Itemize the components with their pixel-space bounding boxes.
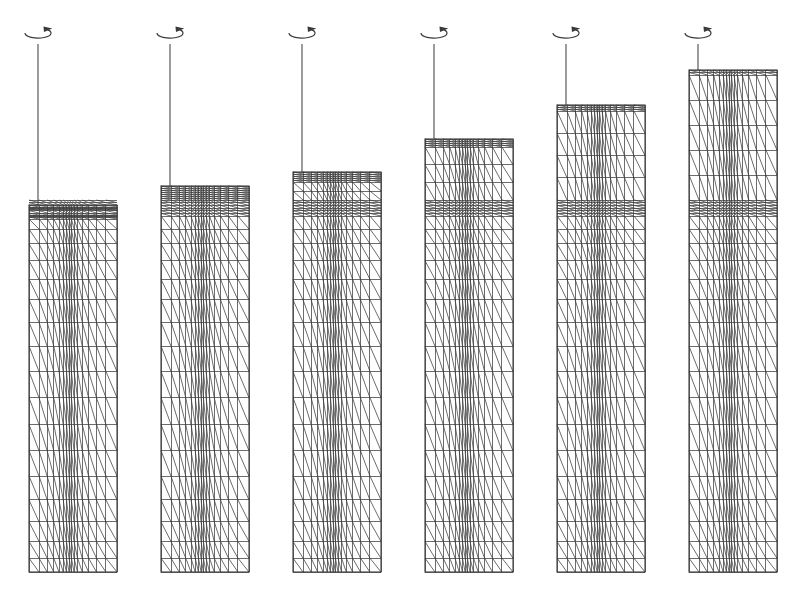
mesh-cell-diagonal [734, 200, 737, 203]
mesh-cell-diagonal [726, 558, 729, 572]
mesh-cell-diagonal [575, 500, 582, 522]
mesh-cell-diagonal [206, 200, 209, 203]
mesh-cell-diagonal [335, 500, 338, 522]
mesh-cell-diagonal [210, 229, 215, 244]
mesh-cell-diagonal [335, 203, 338, 206]
mesh-cell-diagonal [731, 451, 734, 476]
mesh-cell-diagonal [462, 229, 465, 244]
mesh-cell-diagonal [63, 476, 66, 500]
mesh-cell-diagonal [210, 300, 215, 322]
mesh-cell-diagonal [575, 558, 582, 572]
mesh-cell-diagonal [634, 111, 645, 133]
mesh-cell-diagonal [699, 451, 707, 476]
mesh-cell-diagonal [342, 205, 347, 208]
mesh-cell-diagonal [203, 424, 206, 450]
mesh-cell-diagonal [39, 558, 47, 572]
mesh-cell-diagonal [474, 279, 479, 300]
mesh-cell-diagonal [634, 500, 645, 522]
mesh-cell-diagonal [425, 182, 435, 200]
mesh-cell-diagonal [689, 125, 699, 150]
mesh-cell-diagonal [587, 371, 591, 397]
mesh-cell-diagonal [617, 244, 625, 261]
mesh-cell-diagonal [303, 541, 311, 558]
mesh-cell-diagonal [335, 346, 338, 371]
mesh-cell-diagonal [749, 213, 757, 216]
mesh-cell-diagonal [303, 261, 311, 280]
mesh-cell-diagonal [719, 300, 723, 322]
mesh-cell-diagonal [198, 558, 201, 572]
mesh-cell-diagonal [485, 261, 493, 280]
mesh-cell-diagonal [327, 500, 330, 522]
mesh-cell-diagonal [478, 500, 484, 522]
mesh-cell-diagonal [459, 322, 462, 346]
mesh-cell-diagonal [39, 541, 47, 558]
mesh-cell-diagonal [492, 244, 501, 261]
mesh-cell-diagonal [606, 211, 611, 214]
mesh-cell-diagonal [707, 300, 714, 322]
mesh-cell-diagonal [707, 175, 714, 200]
mesh-cell-diagonal [634, 133, 645, 155]
mesh-cell-diagonal [360, 300, 369, 322]
mesh-cell-diagonal [370, 541, 381, 558]
mesh-cell-diagonal [624, 371, 633, 397]
mesh-cell-diagonal [594, 558, 597, 572]
mesh-cell-diagonal [606, 213, 611, 216]
mesh-cell-diagonal [699, 300, 707, 322]
mesh-cell-diagonal [455, 229, 459, 244]
mesh-cell-diagonal [591, 346, 594, 371]
mesh-cell-diagonal [206, 424, 209, 450]
mesh-cell-diagonal [567, 300, 575, 322]
mesh-cell-diagonal [425, 322, 435, 346]
mesh-cell-diagonal [228, 398, 237, 425]
mesh-cell-diagonal [474, 500, 479, 522]
mesh-cell-diagonal [602, 346, 605, 371]
mesh-cell-diagonal [293, 322, 303, 346]
mesh-cell-diagonal [726, 279, 729, 300]
mesh-cell-diagonal [610, 229, 616, 244]
mesh-cell-diagonal [742, 398, 748, 425]
mesh-cell-diagonal [179, 451, 186, 476]
mesh-cell-diagonal [186, 261, 191, 280]
mesh-cell-diagonal [318, 500, 323, 522]
mesh-cell-diagonal [470, 203, 473, 206]
mesh-cell-diagonal [370, 558, 381, 572]
mesh-cell-diagonal [179, 424, 186, 450]
mesh-cell-diagonal [179, 213, 186, 216]
mesh-cell-diagonal [360, 541, 369, 558]
mesh-cell-diagonal [462, 279, 465, 300]
mesh-cell-diagonal [594, 203, 597, 206]
mesh-cell-diagonal [66, 476, 69, 500]
mesh-cell-diagonal [734, 558, 737, 572]
mesh-cell-diagonal [66, 322, 69, 346]
mesh-cell-diagonal [238, 213, 249, 216]
mesh-cell-diagonal [599, 213, 602, 216]
mesh-cell-diagonal [591, 244, 594, 261]
mesh-cell-diagonal [756, 279, 765, 300]
mesh-cell-diagonal [714, 205, 719, 208]
mesh-cell-diagonal [599, 133, 602, 155]
mesh-cell-diagonal [594, 178, 597, 200]
mesh-cell-diagonal [214, 451, 220, 476]
mesh-cell-diagonal [734, 476, 737, 500]
mesh-cell-diagonal [228, 216, 237, 229]
mesh-cell-diagonal [443, 476, 450, 500]
mesh-cell-diagonal [591, 203, 594, 206]
mesh-cell-diagonal [478, 200, 484, 203]
mesh-cell-diagonal [742, 541, 748, 558]
mesh-cell-diagonal [293, 205, 303, 208]
mesh-cell-diagonal [360, 371, 369, 397]
mesh-cell-diagonal [470, 147, 473, 165]
mesh-cell-diagonal [707, 75, 714, 100]
mesh-cell-diagonal [567, 203, 575, 206]
mesh-cell-diagonal [606, 261, 611, 280]
mesh-cell-diagonal [719, 211, 723, 214]
mesh-cell-diagonal [221, 213, 229, 216]
mesh-cell-diagonal [198, 205, 201, 208]
mesh-cell-diagonal [734, 346, 737, 371]
mesh-cell-diagonal [470, 476, 473, 500]
mesh-cell-diagonal [171, 558, 179, 572]
mesh-cell-diagonal [557, 208, 567, 211]
mesh-cell-diagonal [210, 213, 215, 216]
mesh-cell-diagonal [303, 476, 311, 500]
mesh-cell-diagonal [443, 200, 450, 203]
